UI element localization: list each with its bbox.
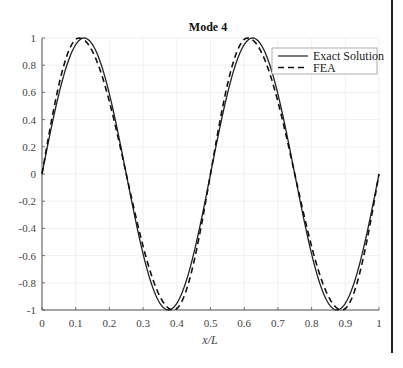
x-tick-label: 0.8 — [305, 317, 319, 329]
y-tick-label: -0.2 — [19, 195, 36, 207]
y-tick-label: 0.4 — [22, 114, 36, 126]
y-tick-label: 1 — [31, 32, 37, 44]
x-tick-label: 0.9 — [338, 317, 352, 329]
x-axis-label: x/L — [201, 333, 218, 347]
x-tick-label: 0.1 — [69, 317, 83, 329]
x-tick-label: 0.4 — [170, 317, 184, 329]
mode-4-chart: 00.10.20.30.40.50.60.70.80.91 10.80.60.4… — [0, 0, 403, 368]
x-tick-label: 0.6 — [237, 317, 251, 329]
y-tick-label: -1 — [27, 304, 36, 316]
y-tick-label: 0 — [31, 168, 37, 180]
x-tick-label: 0.7 — [271, 317, 285, 329]
y-tick-label: -0.6 — [19, 250, 37, 262]
chart-title: Mode 4 — [189, 20, 227, 34]
y-ticks: 10.80.60.40.20-0.2-0.4-0.6-0.8-1 — [19, 32, 45, 316]
y-tick-label: 0.6 — [22, 86, 36, 98]
x-tick-label: 0.2 — [103, 317, 117, 329]
legend-label-fea: FEA — [313, 61, 336, 75]
page-edge-rule — [391, 0, 393, 353]
y-tick-label: 0.2 — [22, 141, 36, 153]
y-tick-label: -0.8 — [19, 277, 37, 289]
y-tick-label: -0.4 — [19, 222, 37, 234]
x-tick-label: 0.5 — [204, 317, 218, 329]
x-tick-label: 0.3 — [136, 317, 150, 329]
y-tick-label: 0.8 — [22, 59, 36, 71]
x-tick-label: 1 — [376, 317, 382, 329]
x-tick-label: 0 — [39, 317, 45, 329]
legend: Exact Solution FEA — [272, 48, 384, 75]
